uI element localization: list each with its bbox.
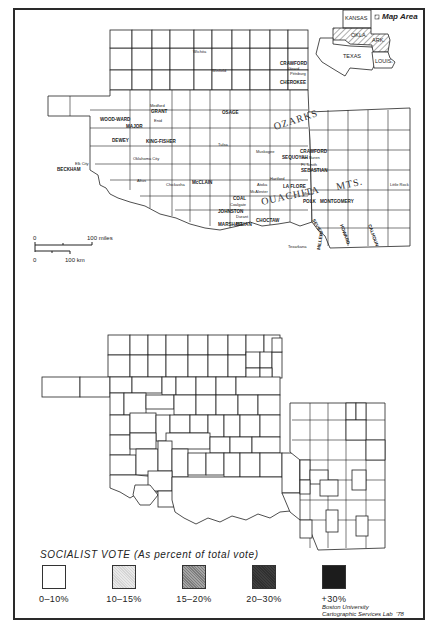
inset-label-okla: OKLA. — [351, 32, 368, 38]
choropleth-kansas — [108, 335, 282, 378]
inset-label-ark: ARK. — [372, 37, 385, 43]
label-altus: Altus — [137, 178, 146, 183]
scale-bar: 0 100 miles 0 100 km — [33, 235, 113, 263]
label-mcalester: McAlester — [250, 189, 268, 194]
label-montgomery: MONTGOMERY — [320, 199, 354, 204]
scale-miles-label: 100 miles — [87, 235, 113, 241]
label-wichita: Wichita — [193, 49, 207, 54]
label-grant: GRANT — [151, 109, 168, 114]
choropleth-oklahoma — [42, 377, 310, 524]
map-credit: Boston University Cartographic Services … — [322, 604, 404, 618]
legend-swatch-20-30 — [252, 565, 276, 589]
legend-swatch-15-20 — [182, 565, 206, 589]
scale-zero-bottom: 0 — [33, 257, 37, 263]
legend-swatch-10-15 — [112, 565, 136, 589]
label-ft-smith: Ft. Smith — [301, 162, 317, 167]
label-chickasha: Chickasha — [166, 182, 185, 187]
legend-item-15-20: 15–20% — [170, 565, 218, 604]
legend-swatch-30-plus — [322, 565, 346, 589]
legend-title: SOCIALIST VOTE (As percent of total vote… — [40, 549, 259, 560]
choropleth-arkansas — [290, 403, 385, 550]
credit-line-2: Cartographic Services Lab '78 — [322, 611, 404, 618]
label-dewey: DEWEY — [112, 138, 129, 143]
inset-map-area-label: Map Area — [382, 12, 418, 21]
label-bryan: BRYAN — [236, 222, 252, 227]
credit-line-1: Boston University — [322, 604, 404, 611]
label-polk: POLK — [303, 199, 316, 204]
inset-label-kansas: KANSAS — [345, 15, 368, 21]
oklahoma-outline — [48, 90, 312, 230]
scale-zero-top: 0 — [33, 235, 37, 241]
legend-item-0-10: 0–10% — [30, 565, 78, 604]
inset-label-texas: TEXAS — [343, 53, 361, 59]
label-crawford-ar: CRAWFORD — [300, 149, 328, 154]
label-medford: Medford — [150, 103, 165, 108]
label-choctaw: CHOCTAW — [256, 218, 280, 223]
label-enid: Enid — [154, 118, 162, 123]
legend-swatch-0-10 — [42, 565, 66, 589]
legend-label-10-15: 10–15% — [106, 594, 141, 604]
label-pittsburg: Pittsburg — [290, 71, 306, 76]
credit-lab: Cartographic Services Lab — [322, 611, 393, 617]
legend-item-30-plus: +30% — [310, 565, 358, 604]
label-miller: MILLER — [316, 232, 324, 250]
label-osage: OSAGE — [222, 110, 239, 115]
kansas-counties — [110, 30, 308, 90]
inset-locator-map: KANSAS OKLA. ARK. TEXAS LOUIS. Map Area — [316, 10, 418, 76]
label-hartford: Hartford — [270, 176, 284, 181]
map-area-key-icon — [375, 15, 379, 19]
label-winfield: Winfield — [212, 68, 226, 73]
credit-year: '78 — [396, 611, 404, 617]
label-van-buren: Van Buren — [301, 155, 320, 160]
label-cherokee: CHEROKEE — [280, 80, 306, 85]
label-sebastian: SEBASTIAN — [301, 168, 328, 173]
label-coal: COAL — [233, 196, 246, 201]
label-muskogee: Muskogee — [256, 149, 275, 154]
legend-label-0-10: 0–10% — [39, 594, 69, 604]
label-atoka: Atoka — [257, 182, 268, 187]
label-beckham: BECKHAM — [57, 167, 81, 172]
legend: 0–10% 10–15% 15–20% 20–30% +30% — [30, 565, 358, 604]
label-mcclain: McCLAIN — [192, 180, 213, 185]
label-little-rock: Little Rock — [390, 182, 409, 187]
legend-item-10-15: 10–15% — [100, 565, 148, 604]
label-durant: Durant — [236, 214, 249, 219]
label-tulsa: Tulsa — [218, 142, 228, 147]
legend-label-20-30: 20–30% — [246, 594, 281, 604]
legend-label-30-plus: +30% — [322, 594, 347, 604]
label-woodward: WOOD-WARD — [100, 117, 131, 122]
legend-label-15-20: 15–20% — [176, 594, 211, 604]
map-canvas: KANSAS OKLA. ARK. TEXAS LOUIS. Map Area — [0, 0, 430, 632]
inset-label-louis: LOUIS. — [375, 58, 394, 64]
label-major: MAJOR — [126, 124, 143, 129]
label-texarkana: Texarkana — [288, 244, 307, 249]
socialist-vote-choropleth — [42, 335, 385, 550]
label-oklahoma-city: Oklahoma City — [133, 156, 159, 161]
legend-item-20-30: 20–30% — [240, 565, 288, 604]
label-elk-city: Elk City — [75, 161, 89, 166]
label-kingfisher: KING-FISHER — [146, 139, 177, 144]
scale-km-label: 100 km — [65, 257, 85, 263]
label-coalgate: Coalgate — [230, 202, 247, 207]
